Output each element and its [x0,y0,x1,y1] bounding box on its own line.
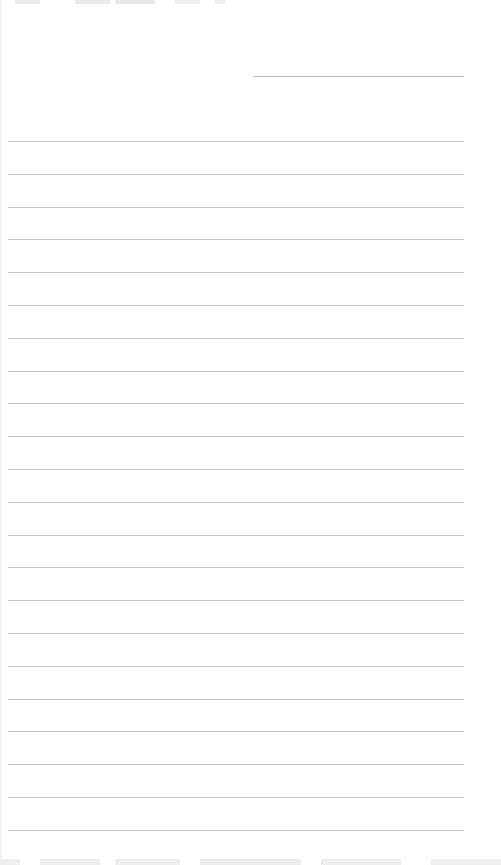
cut-off-footer-text [0,859,501,865]
ruled-line [8,633,464,634]
ruled-line [8,239,464,240]
ruled-line [8,403,464,404]
ruled-line [8,338,464,339]
ruled-line [8,207,464,208]
ruled-line [8,699,464,700]
ruled-line [8,731,464,732]
ruled-line [8,469,464,470]
ruled-line [8,436,464,437]
ruled-line [8,830,464,831]
ruled-line [8,600,464,601]
ruled-line [8,567,464,568]
ruled-line [8,666,464,667]
ruled-lines-container [0,0,501,865]
ruled-line [8,797,464,798]
ruled-line [8,535,464,536]
ruled-line [8,272,464,273]
ruled-line [8,141,464,142]
ruled-line [8,502,464,503]
ruled-line [8,371,464,372]
ruled-line [8,174,464,175]
ruled-line [8,764,464,765]
ruled-line [8,305,464,306]
